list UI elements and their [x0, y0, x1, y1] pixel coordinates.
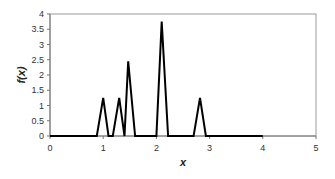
x-tick-label: 1 [101, 143, 106, 153]
y-tick-label: 3.5 [31, 24, 44, 34]
x-tick-label: 0 [47, 143, 52, 153]
y-axis-label: f(x) [15, 66, 27, 83]
y-tick-label: 4 [39, 9, 44, 19]
series-line [50, 22, 263, 136]
y-tick-label: 1.5 [31, 85, 44, 95]
y-tick-label: 1 [39, 101, 44, 111]
y-tick-label: 2 [39, 70, 44, 80]
chart: 00.511.522.533.54 012345 f(x) x [0, 0, 335, 179]
x-tick-label: 4 [260, 143, 265, 153]
x-tick-label: 2 [154, 143, 159, 153]
y-tick-label: 0 [39, 131, 44, 141]
plot-area [50, 14, 316, 136]
y-tick-label: 3 [39, 40, 44, 50]
x-tick-label: 5 [313, 143, 318, 153]
y-tick-label: 0.5 [31, 116, 44, 126]
x-axis-label: x [179, 156, 187, 168]
y-tick-label: 2.5 [31, 55, 44, 65]
x-tick-label: 3 [207, 143, 212, 153]
